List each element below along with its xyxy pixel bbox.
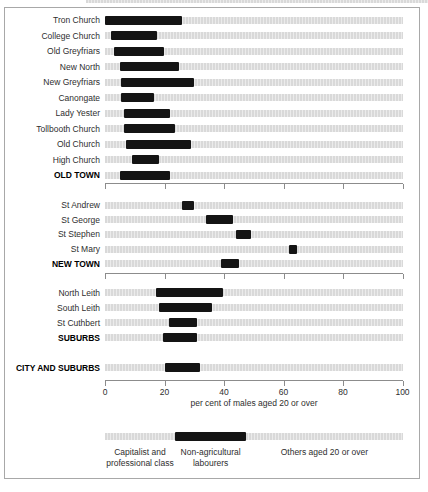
x-axis-tick — [284, 184, 285, 189]
row-label: St Stephen — [58, 229, 100, 239]
bar-segment — [221, 259, 239, 268]
bar-segment — [163, 333, 197, 342]
bar-segment — [165, 363, 201, 372]
x-axis-tick — [343, 274, 344, 279]
x-axis-tick-label: 40 — [219, 387, 228, 397]
x-axis-tick — [224, 381, 225, 386]
bar-track — [105, 246, 403, 253]
legend-label-line: Non-agricultural — [181, 447, 241, 458]
bar-track — [105, 304, 403, 311]
row-label: OLD TOWN — [54, 170, 100, 180]
x-axis-tick — [403, 274, 404, 279]
x-axis-tick — [105, 184, 106, 189]
row-label: SUBURBS — [58, 333, 100, 343]
row-label: Canongate — [58, 93, 100, 103]
bar-track — [105, 289, 403, 296]
x-axis-line — [105, 273, 403, 274]
x-axis-tick — [224, 184, 225, 189]
legend-label-line: labourers — [181, 458, 241, 469]
row-label: CITY AND SUBURBS — [16, 363, 100, 373]
legend-label-line: professional class — [106, 458, 174, 469]
x-axis-tick — [165, 184, 166, 189]
x-axis-tick — [403, 381, 404, 386]
bar-segment — [126, 140, 191, 149]
x-axis-tick — [403, 184, 404, 189]
row-label: NEW TOWN — [52, 259, 100, 269]
row-label: New North — [60, 62, 100, 72]
row-label: St Andrew — [61, 200, 100, 210]
bar-segment — [120, 171, 171, 180]
bar-segment — [159, 303, 213, 312]
x-axis-tick — [343, 381, 344, 386]
legend-label-line: Capitalist and — [106, 447, 174, 458]
legend-label: Capitalist andprofessional class — [106, 447, 174, 469]
legend-track — [105, 433, 403, 440]
x-axis-line — [105, 183, 403, 184]
bar-segment — [236, 230, 251, 239]
bar-segment — [132, 155, 159, 164]
x-axis-tick — [165, 274, 166, 279]
bar-segment — [120, 62, 180, 71]
bar-segment — [156, 288, 223, 297]
row-label: St Mary — [71, 244, 100, 254]
bar-segment — [124, 124, 175, 133]
x-axis-tick-label: 100 — [395, 387, 409, 397]
bar-track — [105, 231, 403, 238]
x-axis-tick — [105, 274, 106, 279]
legend-label: Others aged 20 or over — [281, 447, 368, 458]
bar-segment — [289, 245, 296, 254]
row-label: St Cuthbert — [57, 318, 100, 328]
legend-label: Non-agriculturallabourers — [181, 447, 241, 469]
bar-segment — [105, 16, 182, 25]
row-label: High Church — [53, 155, 100, 165]
bar-segment — [114, 47, 165, 56]
row-label: College Church — [41, 31, 100, 41]
bar-track — [105, 216, 403, 223]
row-label: Lady Yester — [56, 108, 100, 118]
x-axis-tick-label: 0 — [103, 387, 108, 397]
bar-track — [105, 260, 403, 267]
row-label: North Leith — [58, 288, 100, 298]
x-axis-line — [105, 380, 403, 381]
bar-segment — [206, 215, 233, 224]
x-axis-tick — [165, 381, 166, 386]
row-label: St George — [61, 215, 100, 225]
bar-segment — [124, 109, 170, 118]
bar-track — [105, 334, 403, 341]
row-label: Tollbooth Church — [36, 124, 100, 134]
parish-occupation-chart: Tron ChurchCollege ChurchOld GreyfriarsN… — [0, 0, 428, 492]
bar-segment — [121, 93, 154, 102]
bar-track — [105, 364, 403, 371]
bar-segment — [169, 318, 197, 327]
row-label: Tron Church — [53, 15, 100, 25]
x-axis-tick — [284, 274, 285, 279]
row-label: Old Greyfriars — [47, 46, 100, 56]
x-axis-tick — [105, 381, 106, 386]
x-axis-tick-label: 60 — [279, 387, 288, 397]
bar-track — [105, 202, 403, 209]
x-axis-tick-label: 20 — [160, 387, 169, 397]
legend-label-line: Others aged 20 or over — [281, 447, 368, 458]
row-label: Old Church — [57, 139, 100, 149]
x-axis-tick — [343, 184, 344, 189]
bar-segment — [121, 78, 194, 87]
row-label: New Greyfriars — [43, 77, 100, 87]
x-axis-tick — [284, 381, 285, 386]
x-axis-title: per cent of males aged 20 or over — [190, 398, 317, 408]
row-label: South Leith — [57, 303, 100, 313]
bar-segment — [111, 31, 157, 40]
x-axis-tick-label: 80 — [338, 387, 347, 397]
cropped-bar-artifact — [86, 0, 428, 3]
legend-black-segment — [175, 432, 246, 441]
bar-segment — [182, 201, 194, 210]
x-axis-tick — [224, 274, 225, 279]
bar-track — [105, 319, 403, 326]
